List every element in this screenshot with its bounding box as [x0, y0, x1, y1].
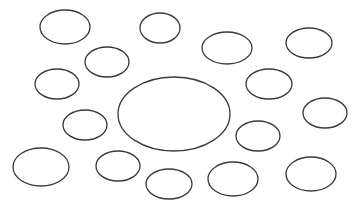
satellite-ellipse-7 — [246, 69, 292, 99]
satellite-ellipse-11 — [13, 148, 69, 186]
satellite-ellipse-15 — [286, 157, 336, 191]
satellite-ellipse-1 — [40, 10, 90, 44]
satellite-ellipses — [13, 10, 347, 199]
satellite-ellipse-5 — [85, 47, 129, 77]
satellite-ellipse-4 — [286, 28, 332, 58]
satellite-ellipse-3 — [202, 32, 252, 64]
ellipse-diagram — [0, 0, 361, 207]
satellite-ellipse-13 — [146, 169, 192, 199]
satellite-ellipse-14 — [208, 162, 258, 196]
satellite-ellipse-6 — [35, 69, 79, 99]
central-ellipse — [118, 77, 230, 151]
satellite-ellipse-8 — [303, 98, 347, 128]
satellite-ellipse-9 — [63, 110, 107, 140]
satellite-ellipse-10 — [236, 121, 280, 151]
satellite-ellipse-2 — [140, 13, 180, 43]
satellite-ellipse-12 — [96, 151, 140, 181]
diagram-canvas — [0, 0, 361, 207]
